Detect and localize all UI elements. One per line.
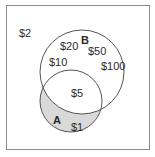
b-only-value: $20 bbox=[60, 40, 78, 52]
venn-diagram: $2 B $20 $50 $10 $100 $5 A $1 bbox=[0, 0, 155, 157]
b-only-value: $100 bbox=[101, 60, 125, 72]
outside-value: $2 bbox=[19, 27, 31, 39]
set-a-label: A bbox=[53, 114, 61, 126]
b-only-value: $10 bbox=[49, 56, 67, 68]
intersection-value: $5 bbox=[71, 87, 83, 99]
a-only-value: $1 bbox=[71, 121, 83, 133]
b-only-value: $50 bbox=[88, 45, 106, 57]
